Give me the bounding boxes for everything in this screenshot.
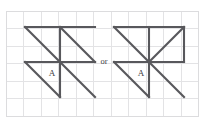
left-pinwheel-lower-diagonal-right (60, 62, 95, 97)
diagram-canvas: AAor (0, 0, 208, 129)
right-pinwheel-label-a: A (138, 68, 145, 78)
left-pinwheel-upper-diagonal-right (60, 27, 95, 62)
left-pinwheel (25, 27, 95, 97)
right-pinwheel-upper-diagonal-right (149, 27, 184, 62)
right-pinwheel-upper-diagonal-left (114, 27, 149, 62)
pinwheel-diagram: AAor (0, 0, 208, 129)
left-pinwheel-label-a: A (49, 68, 56, 78)
diagram-labels: AAor (49, 56, 145, 78)
right-pinwheel-lower-diagonal-right (149, 62, 184, 97)
left-pinwheel-upper-diagonal-left (25, 27, 60, 62)
connector-or-text: or (100, 56, 107, 66)
right-pinwheel (114, 27, 184, 97)
